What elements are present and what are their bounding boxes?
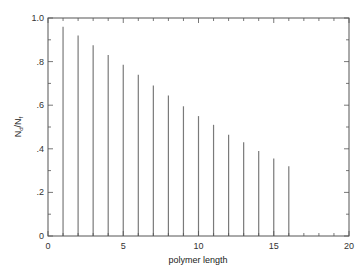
x-tick-label: 15 xyxy=(269,241,279,251)
y-axis-label: Nd/Nf xyxy=(13,116,24,137)
x-tick-label: 20 xyxy=(344,241,354,251)
y-tick-label: 1.0 xyxy=(31,13,44,23)
x-tick-label: 5 xyxy=(121,241,126,251)
bars xyxy=(63,27,289,236)
y-tick-label: .6 xyxy=(36,100,44,110)
y-tick-label: .8 xyxy=(36,57,44,67)
chart: 051015200.2.4.6.81.0 polymer length Nd/N… xyxy=(0,0,360,276)
y-tick-label: .4 xyxy=(36,144,44,154)
x-tick-label: 0 xyxy=(45,241,50,251)
x-tick-label: 10 xyxy=(193,241,203,251)
y-tick-label: 0 xyxy=(39,231,44,241)
x-axis-label: polymer length xyxy=(168,255,227,265)
y-tick-label: .2 xyxy=(36,187,44,197)
tick-labels: 051015200.2.4.6.81.0 xyxy=(31,13,354,251)
